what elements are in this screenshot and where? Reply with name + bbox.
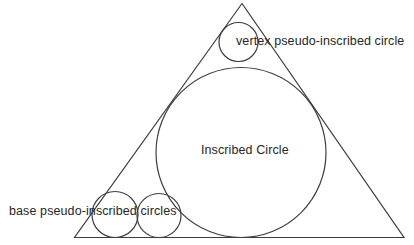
base-circles-label: base pseudo-inscribed circles [9, 203, 177, 219]
inscribed-circle-label: Inscribed Circle [201, 142, 289, 158]
vertex-circle-label: vertex pseudo-inscribed circle [236, 33, 404, 49]
diagram: vertex pseudo-inscribed circle Inscribed… [0, 0, 414, 245]
